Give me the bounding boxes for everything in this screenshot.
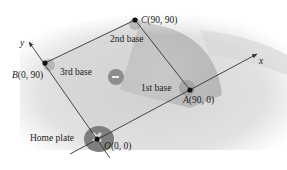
label-C: C(90, 90) bbox=[141, 15, 177, 26]
label-O: O(0, 0) bbox=[104, 141, 131, 152]
diagram-canvas: x y C(90, 90) B(0, 90) A(90, 0) O(0, 0) … bbox=[0, 0, 287, 170]
point-O bbox=[94, 136, 99, 141]
point-C bbox=[132, 17, 137, 22]
baseball-diamond-diagram: x y C(90, 90) B(0, 90) A(90, 0) O(0, 0) … bbox=[0, 0, 287, 170]
A-coords: (90, 0) bbox=[189, 95, 214, 106]
C-coords: (90, 90) bbox=[147, 15, 177, 26]
x-axis-label: x bbox=[258, 56, 264, 66]
point-B bbox=[42, 60, 47, 65]
home-plate-label: Home plate bbox=[30, 133, 74, 143]
label-B: B(0, 90) bbox=[12, 70, 43, 81]
pitchers-mound bbox=[108, 69, 124, 85]
first-base-label: 1st base bbox=[141, 83, 171, 93]
y-axis-label: y bbox=[19, 38, 25, 48]
second-base-label: 2nd base bbox=[110, 34, 144, 44]
label-A: A(90, 0) bbox=[182, 95, 214, 106]
O-coords: (0, 0) bbox=[111, 141, 132, 152]
point-A bbox=[187, 87, 192, 92]
third-base-label: 3rd base bbox=[60, 67, 92, 77]
B-coords: (0, 90) bbox=[18, 70, 43, 81]
